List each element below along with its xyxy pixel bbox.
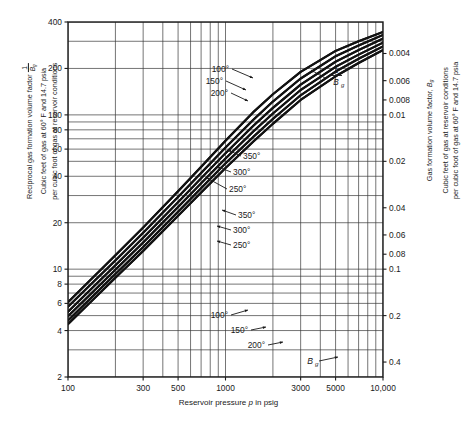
x-title-suffix: in psig [253, 398, 278, 407]
y-left-tick-label: 6 [57, 298, 62, 308]
y-left-title-fraction: 1 Bg [21, 63, 38, 72]
annotation-label: 200° [248, 340, 265, 350]
y-left-tick-label: 4 [57, 326, 62, 336]
y-right-tick-label: 0.1 [389, 264, 401, 274]
recip-label-denominator-sub: g [341, 82, 345, 88]
x-tick-label: 5000 [326, 383, 345, 393]
y-right-title-line2: Cubic feet of gas at reservoir condition… [440, 5, 451, 255]
y-right-tick-label: 0.06 [389, 230, 406, 240]
y-right-tick-label: 0.008 [389, 95, 410, 105]
y-right-tick-label: 0.006 [389, 76, 410, 86]
annotation-label: 300° [233, 167, 250, 177]
y-right-title-line1: Gas formation volume factor, [425, 87, 434, 181]
y-left-frac-denominator: Bg [28, 63, 38, 72]
x-tick-label: 3000 [291, 383, 310, 393]
y-left-tick-label: 2 [57, 372, 62, 382]
y-right-tick-label: 0.01 [389, 110, 406, 120]
annotation-label: 150° [206, 76, 223, 86]
leader-arrowhead [222, 210, 225, 213]
y-right-title-sub: g [428, 80, 434, 83]
annotation-label: 250° [229, 184, 246, 194]
y-left-frac-numerator: 1 [21, 63, 28, 72]
y-left-title-line1: Reciprocal gas formation volume factor [25, 74, 34, 199]
y-right-title-line3: per cubic foot of gas at 60° F and 14.7 … [451, 5, 461, 255]
leader-line [232, 69, 253, 78]
x-tick-label: 10,000 [370, 383, 396, 393]
y-left-title-line3: per cubic foot of gas at reservoir condi… [50, 6, 61, 256]
x-tick-label: 100 [61, 383, 75, 393]
bg-label-sub: g [315, 360, 319, 367]
annotation-label: 100° [212, 64, 229, 74]
y-axis-right-title: Gas formation volume factor, Bg Cubic fe… [425, 5, 461, 255]
tick-label-layer: 10030050010003000500010,0004002001008060… [48, 17, 410, 393]
y-right-tick-label: 0.4 [389, 357, 401, 367]
y-right-title-var: B [425, 83, 434, 88]
y-left-tick-label: 8 [57, 279, 62, 289]
x-tick-label: 1000 [216, 383, 235, 393]
y-left-title-line2: Cubic feet of gas at 60° F and 14.7 psia [39, 6, 50, 256]
y-right-tick-label: 0.004 [389, 48, 410, 58]
y-right-tick-label: 0.04 [389, 203, 406, 213]
annotation-label: 300° [233, 225, 250, 235]
bg-label-var: B [307, 356, 313, 366]
leader-arrowhead [245, 310, 248, 313]
annotation-label: 100° [211, 310, 228, 320]
x-tick-label: 500 [171, 383, 185, 393]
x-tick-label: 300 [136, 383, 150, 393]
recip-label-denominator: B [333, 78, 339, 87]
annotation-label: 350° [243, 151, 260, 161]
annotation-label: 250° [233, 240, 250, 250]
annotation-label: 200° [211, 88, 228, 98]
y-right-tick-label: 0.2 [389, 311, 401, 321]
leader-line [226, 81, 246, 90]
annotation-layer: 100°150°200°350°300°250°350°300°250°100°… [206, 64, 345, 367]
y-axis-left-title: Reciprocal gas formation volume factor 1… [22, 6, 60, 256]
x-title-prefix: Reservoir pressure [179, 398, 249, 407]
y-right-tick-label: 0.08 [389, 249, 406, 259]
y-right-tick-label: 0.02 [389, 156, 406, 166]
annotation-label: 350° [238, 210, 255, 220]
annotation-label: 150° [231, 325, 248, 335]
x-axis-title: Reservoir pressure p in psig [0, 398, 457, 407]
recip-label-numerator: 1 [334, 66, 339, 75]
y-left-tick-label: 10 [53, 264, 63, 274]
